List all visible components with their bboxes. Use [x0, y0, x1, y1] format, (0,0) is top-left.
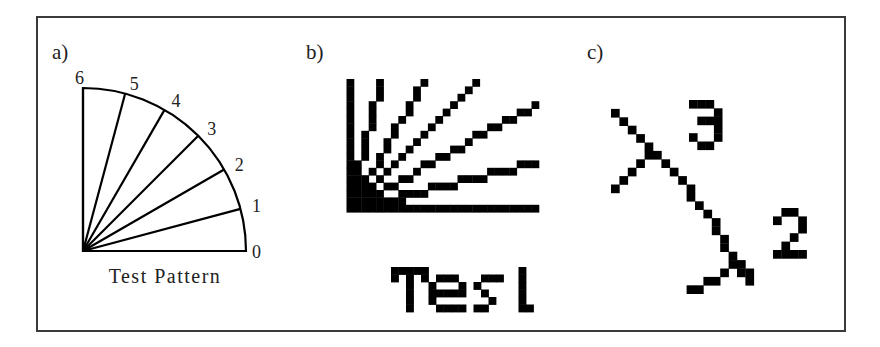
line-pixel: [695, 285, 704, 294]
raster-pixel: [347, 116, 355, 124]
raster-pixel: [428, 205, 436, 213]
digit-3-pixel: [697, 142, 706, 151]
digit-3-pixel: [706, 117, 715, 126]
raster-pixel: [406, 146, 414, 154]
line-pixel: [611, 185, 620, 194]
line-pixel: [720, 269, 729, 278]
raster-pixel: [376, 79, 384, 87]
raster-pixel: [347, 197, 355, 205]
digit-2-pixel: [798, 216, 807, 225]
raster-pixel: [458, 146, 466, 154]
text-pixel: [496, 275, 504, 283]
text-pixel: [489, 275, 497, 283]
raster-pixel: [398, 175, 406, 183]
digit-3-pixel: [714, 133, 723, 142]
digit-3-pixel: [689, 133, 698, 142]
raster-pixel: [480, 131, 488, 139]
raster-pixel: [347, 138, 355, 146]
raster-pixel: [413, 205, 421, 213]
raster-pixel: [435, 153, 443, 161]
raster-pixel: [502, 116, 510, 124]
raster-pixel: [472, 131, 480, 139]
raster-pixel: [421, 205, 429, 213]
raster-pixel: [517, 109, 525, 117]
digit-3-pixel: [714, 125, 723, 134]
line-pixel: [729, 252, 738, 261]
raster-pixel: [450, 183, 458, 191]
panel-a-caption: Test Pattern: [109, 265, 222, 287]
raster-pixel: [435, 116, 443, 124]
raster-pixel: [465, 86, 473, 94]
line-pixel: [695, 201, 704, 210]
raster-pixel: [524, 109, 532, 117]
text-pixel: [429, 290, 437, 298]
line-pixel: [636, 159, 645, 168]
raster-pixel: [384, 168, 392, 176]
digit-3-pixel: [697, 117, 706, 126]
line-pixel: [619, 117, 628, 126]
raster-pixel: [347, 168, 355, 176]
raster-pixel: [391, 123, 399, 131]
text-pixel: [519, 267, 527, 275]
raster-pixel: [517, 205, 525, 213]
digit-2-pixel: [798, 250, 807, 259]
raster-pixel: [502, 205, 510, 213]
line-pixel: [687, 285, 696, 294]
raster-pixel: [472, 79, 480, 87]
text-pixel: [459, 305, 467, 313]
raster-pixel: [502, 168, 510, 176]
raster-pixel: [384, 205, 392, 213]
line-pixel: [712, 277, 721, 286]
line-pixel: [703, 210, 712, 219]
raster-pixel: [354, 190, 362, 198]
raster-pixel: [347, 190, 355, 198]
raster-pixel: [443, 205, 451, 213]
raster-pixel: [398, 197, 406, 205]
raster-pixel: [413, 86, 421, 94]
text-pixel: [481, 275, 489, 283]
raster-pixel: [443, 183, 451, 191]
line-pixel: [645, 143, 654, 152]
raster-pixel: [465, 175, 473, 183]
raster-pixel: [487, 168, 495, 176]
tick-label-0: 0: [252, 242, 261, 262]
raster-pixel: [443, 153, 451, 161]
text-pixel: [459, 290, 467, 298]
raster-pixel: [347, 131, 355, 139]
panel-a-test-pattern: 0123456: [75, 68, 261, 262]
digit-2-pixel: [790, 233, 799, 242]
line-pixel: [720, 235, 729, 244]
raster-pixel: [406, 190, 414, 198]
raster-pixel: [450, 146, 458, 154]
raster-pixel: [391, 131, 399, 139]
raster-pixel: [398, 190, 406, 198]
raster-pixel: [384, 183, 392, 191]
line-pixel: [737, 260, 746, 269]
line-pixel: [628, 126, 637, 135]
raster-pixel: [347, 175, 355, 183]
text-pixel: [451, 275, 459, 283]
raster-pixel: [384, 146, 392, 154]
text-pixel: [436, 305, 444, 313]
line-pixel: [611, 109, 620, 118]
line-pixel: [678, 176, 687, 185]
raster-pixel: [472, 205, 480, 213]
raster-pixel: [369, 168, 377, 176]
raster-pixel: [376, 153, 384, 161]
text-pixel: [451, 290, 459, 298]
raster-pixel: [376, 197, 384, 205]
raster-pixel: [369, 116, 377, 124]
line-pixel: [687, 193, 696, 202]
digit-2-pixel: [773, 250, 782, 259]
raster-pixel: [458, 175, 466, 183]
raster-pixel: [517, 160, 525, 168]
raster-pixel: [391, 183, 399, 191]
text-pixel: [474, 305, 482, 313]
text-pixel: [436, 275, 444, 283]
raster-pixel: [480, 205, 488, 213]
digit-3-pixel: [689, 100, 698, 109]
text-pixel: [421, 267, 429, 275]
raster-pixel: [413, 190, 421, 198]
raster-pixel: [369, 197, 377, 205]
raster-pixel: [509, 205, 517, 213]
